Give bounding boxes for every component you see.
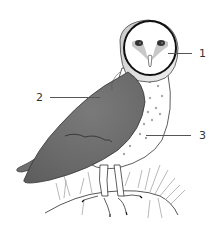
label-1-facial-disc: 1 bbox=[199, 48, 206, 59]
label-3-breast: 3 bbox=[199, 130, 206, 141]
leader-line-3 bbox=[146, 135, 191, 136]
leader-line-2 bbox=[50, 97, 100, 98]
owl-illustration bbox=[0, 0, 213, 233]
owl-wing bbox=[17, 72, 145, 183]
leader-line-1 bbox=[168, 53, 192, 54]
label-2-wing: 2 bbox=[36, 92, 43, 103]
barn-owl-diagram: 1 2 3 bbox=[0, 0, 213, 233]
